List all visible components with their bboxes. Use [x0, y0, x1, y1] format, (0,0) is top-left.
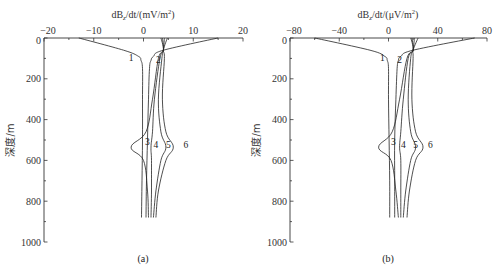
curve-1: [315, 38, 390, 218]
chart-canvas: −20−100102002004006008001000123456 dBz/d…: [0, 0, 500, 268]
curve-label-5: 5: [166, 140, 171, 150]
y-tick-label: 1000: [267, 237, 287, 248]
curve-label-6: 6: [183, 140, 188, 150]
y-tick-label: 600: [272, 155, 287, 166]
panel-a-depth-profile: −20−100102002004006008001000123456 dBz/d…: [4, 8, 248, 265]
curve-label-3: 3: [145, 137, 150, 147]
panel-b-caption: (b): [382, 253, 394, 265]
y-tick-label: 200: [272, 73, 287, 84]
panel-b-plot: −80−400408002004006008001000123456: [267, 25, 492, 248]
y-tick-label: 0: [282, 35, 287, 46]
panel-b-depth-profile: −80−400408002004006008001000123456 dBz/d…: [250, 8, 492, 265]
curve-label-4: 4: [401, 140, 406, 150]
panel-b-y-axis-label: 深度/m: [250, 123, 262, 156]
curve-label-1: 1: [380, 53, 385, 63]
y-tick-label: 800: [26, 196, 41, 207]
curve-2: [395, 38, 475, 218]
x-tick-label: 10: [188, 25, 198, 36]
x-tick-label: −20: [40, 25, 56, 36]
x-tick-label: −40: [331, 25, 347, 36]
curve-label-3: 3: [391, 137, 396, 147]
y-tick-label: 400: [26, 114, 41, 125]
panel-a-caption: (a): [137, 253, 148, 265]
x-tick-label: 80: [482, 25, 492, 36]
curve-label-2: 2: [397, 55, 402, 65]
panel-a-plot: −20−100102002004006008001000123456: [21, 25, 248, 248]
x-tick-label: 40: [433, 25, 443, 36]
curve-label-2: 2: [156, 55, 161, 65]
y-tick-label: 0: [36, 35, 41, 46]
curve-6: [407, 38, 423, 218]
y-tick-label: 600: [26, 155, 41, 166]
x-tick-label: 0: [141, 25, 146, 36]
curve-3: [379, 38, 414, 218]
curve-label-4: 4: [154, 140, 159, 150]
y-tick-label: 1000: [21, 237, 41, 248]
x-tick-label: −80: [286, 25, 302, 36]
panel-b-x-axis-label: dBz/dt/(μV/m2): [358, 8, 419, 22]
curve-label-6: 6: [428, 140, 433, 150]
x-tick-label: 0: [386, 25, 391, 36]
y-tick-label: 800: [272, 196, 287, 207]
panel-a-y-axis-label: 深度/m: [4, 123, 16, 156]
x-tick-label: 20: [238, 25, 248, 36]
curve-1: [79, 38, 143, 218]
y-tick-label: 400: [272, 114, 287, 125]
curve-label-1: 1: [129, 53, 134, 63]
curve-label-5: 5: [413, 140, 418, 150]
y-tick-label: 200: [26, 73, 41, 84]
x-tick-label: −10: [86, 25, 102, 36]
panel-a-x-axis-label: dBz/dt/(mV/m2): [111, 8, 174, 22]
